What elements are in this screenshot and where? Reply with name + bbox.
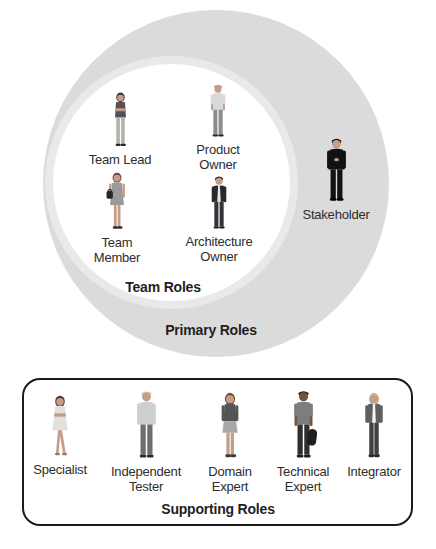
team-roles-label: Team Roles [103, 279, 223, 295]
primary-roles-label: Primary Roles [141, 322, 281, 338]
man-in-blazer-icon [206, 176, 232, 232]
role-product-owner: Product Owner [173, 84, 263, 172]
role-label: Product Owner [196, 142, 239, 172]
man-light-shirt-icon [130, 390, 163, 462]
role-team-lead: Team Lead [75, 92, 165, 167]
woman-blonde-jacket-icon [358, 392, 390, 462]
role-independent-tester: Independent Tester [103, 390, 189, 494]
role-team-member: Team Member [72, 172, 162, 265]
man-with-backpack-icon [287, 390, 320, 462]
role-label: Stakeholder [302, 207, 369, 222]
role-label: Team Lead [89, 152, 152, 167]
role-label: Integrator [347, 464, 401, 479]
role-specialist: Specialist [17, 395, 103, 477]
role-stakeholder: Stakeholder [291, 138, 381, 222]
roles-diagram: Team Lead Product Owner [0, 0, 436, 549]
role-label: Team Member [94, 235, 140, 265]
role-label: Domain Expert [208, 464, 252, 494]
role-label: Technical Expert [277, 464, 329, 494]
supporting-roles-label: Supporting Roles [118, 501, 318, 517]
role-label: Architecture Owner [186, 234, 253, 264]
woman-with-handbag-icon [103, 172, 131, 233]
man-in-black-suit-icon [321, 138, 352, 205]
role-label: Specialist [33, 462, 87, 477]
man-standing-icon [205, 84, 231, 140]
role-integrator: Integrator [331, 392, 417, 479]
woman-arms-crossed-icon [107, 92, 134, 150]
role-architecture-owner: Architecture Owner [174, 176, 264, 264]
role-label: Independent Tester [111, 464, 181, 494]
woman-in-dress-icon [45, 395, 75, 460]
woman-jacket-skirt-icon [214, 392, 246, 462]
